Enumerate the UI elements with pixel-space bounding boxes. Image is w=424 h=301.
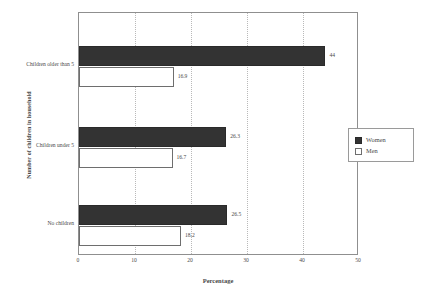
legend-label: Men [366, 148, 378, 154]
x-tick-label: 50 [346, 258, 370, 264]
bar-value-label: 44 [329, 53, 335, 59]
legend-item-women[interactable]: Women [355, 137, 408, 144]
x-tick-label: 30 [234, 258, 258, 264]
bar-value-label: 26.3 [230, 134, 240, 140]
bar-women-2 [79, 205, 227, 225]
plot-area: 4416.926.316.726.518.2 [78, 12, 358, 255]
bar-chart: Number of children in household Children… [0, 0, 424, 301]
category-axis-labels: Children older than 5Children under 5No … [0, 12, 74, 255]
x-tick-label: 10 [122, 258, 146, 264]
bar-men-2 [79, 226, 181, 246]
category-label: No children [0, 221, 74, 227]
legend: WomenMen [348, 128, 414, 162]
legend-swatch-icon [355, 148, 362, 155]
bar-men-0 [79, 67, 174, 87]
category-label: Children under 5 [0, 143, 74, 149]
bar-men-1 [79, 148, 173, 168]
x-tick-label: 40 [290, 258, 314, 264]
bar-value-label: 18.2 [185, 233, 195, 239]
bar-women-1 [79, 127, 226, 147]
x-axis-tick-labels: 01020304050 [78, 258, 358, 270]
bar-women-0 [79, 46, 325, 66]
x-tick-label: 0 [66, 258, 90, 264]
x-axis-title: Percentage [78, 277, 358, 284]
legend-swatch-icon [355, 137, 362, 144]
bar-value-label: 16.9 [178, 74, 188, 80]
bar-value-label: 26.5 [231, 212, 241, 218]
bar-value-label: 16.7 [177, 155, 187, 161]
x-tick-label: 20 [178, 258, 202, 264]
legend-item-men[interactable]: Men [355, 148, 408, 155]
category-label: Children older than 5 [0, 62, 74, 68]
legend-label: Women [366, 137, 386, 143]
